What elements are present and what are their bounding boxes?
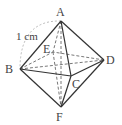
- vertex-label-a: A: [56, 5, 65, 19]
- edge-BC: [20, 69, 71, 76]
- edge-BF: [20, 69, 61, 107]
- diagonal-BD: [20, 60, 104, 69]
- edge-EF: [53, 52, 61, 107]
- vertex-label-d: D: [106, 53, 115, 67]
- octahedron-diagram: A B C D E F 1 cm: [0, 0, 122, 125]
- edge-CD: [71, 60, 104, 76]
- edge-DF: [61, 60, 104, 107]
- vertex-label-f: F: [56, 110, 63, 124]
- vertex-label-b: B: [5, 62, 13, 76]
- edge-length-label: 1 cm: [16, 30, 38, 42]
- vertex-label-c: C: [72, 77, 80, 91]
- vertex-label-e: E: [43, 42, 50, 56]
- edge-AB: [20, 21, 61, 69]
